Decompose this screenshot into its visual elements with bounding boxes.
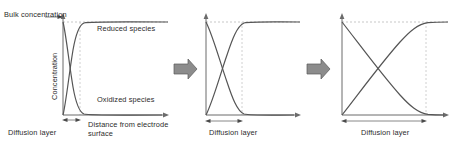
diffusion-layer-right-arrowhead-icon — [238, 119, 244, 123]
connector-arrow-1 — [172, 0, 200, 146]
oxidized-species-label: Oxidized species — [97, 95, 154, 104]
panel-2: Diffusion layer — [200, 0, 304, 146]
connector-arrow-2 — [304, 0, 334, 146]
diffusion-layer-left-arrowhead-icon — [205, 119, 211, 123]
oxidized-species-curve — [342, 22, 444, 115]
right-block-arrow-shape — [307, 59, 330, 79]
panel-3: Diffusion layer — [334, 0, 454, 146]
x-axis-arrowhead-icon — [163, 113, 169, 118]
reduced-species-curve — [206, 22, 300, 115]
oxidized-species-curve — [206, 22, 294, 115]
diffusion-layer-label: Diffusion layer — [8, 128, 56, 137]
reduced-species-curve — [342, 22, 448, 115]
diffusion-layer-label: Diffusion layer — [209, 128, 257, 137]
diffusion-layer-right-arrowhead-icon — [76, 118, 82, 122]
diffusion-layer-right-arrowhead-icon — [422, 119, 428, 123]
right-block-arrow-icon — [172, 0, 200, 146]
bulk-concentration-label: Bulk concentration — [4, 10, 62, 19]
y-axis-label: Concentration — [50, 53, 59, 100]
concentration-profile-figure: Bulk concentration Concentration Reduced… — [0, 0, 454, 146]
panel-3-plot — [334, 0, 454, 146]
diffusion-layer-left-arrowhead-icon — [341, 119, 347, 123]
y-axis-arrowhead-icon — [340, 13, 345, 19]
panel-1: Bulk concentration Concentration Reduced… — [0, 0, 172, 146]
right-block-arrow-icon — [304, 0, 334, 146]
right-block-arrow-shape — [174, 59, 197, 79]
x-axis-arrowhead-icon — [295, 113, 301, 118]
diffusion-layer-left-arrowhead-icon — [62, 118, 68, 122]
y-axis-arrowhead-icon — [204, 13, 209, 19]
x-axis-label: Distance from electrode surface — [88, 120, 170, 138]
diffusion-layer-label: Diffusion layer — [361, 128, 409, 137]
panel-2-plot — [200, 0, 304, 146]
reduced-species-label: Reduced species — [97, 24, 155, 33]
